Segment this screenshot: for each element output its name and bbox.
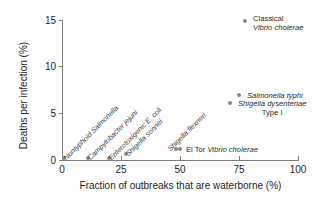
x-axis-title: Fraction of outbreaks that are waterborn… [62,180,299,191]
label-classical-prefix: Classical [253,14,283,23]
x-tick-100 [298,156,299,160]
y-axis-line [62,20,63,161]
y-tick-label-15: 15 [36,15,56,26]
label-el-tor-species: Vibrio cholerae [207,145,258,154]
x-tick-25 [121,156,122,160]
x-tick-label-100: 100 [290,164,307,175]
data-point-el-tor-vibrio-cholerae [178,147,182,151]
y-axis-title: Deaths per infection (%) [18,21,29,171]
x-tick-label-75: 75 [233,164,244,175]
data-point-classical-vibrio-cholerae [243,19,247,23]
label-classical-species: Vibrio cholerae [253,23,304,32]
y-tick-15 [59,20,63,21]
label-el-tor-vibrio-cholerae: El Tor Vibrio cholerae [186,145,258,154]
label-el-tor-prefix: El Tor [186,145,207,154]
y-tick-label-10: 10 [36,61,56,72]
data-point-salmonella-typhi [237,93,241,97]
y-tick-5 [59,113,63,114]
y-tick-10 [59,66,63,67]
x-tick-75 [239,156,240,160]
label-shigella-dysenteriae: Shigella dysenteriae Type I [238,99,306,118]
x-tick-label-50: 50 [174,164,185,175]
x-axis-line [62,160,299,161]
scatter-chart-figure: 0 25 50 75 100 15 10 5 0 Fraction of out… [0,0,325,204]
y-tick-label-0: 0 [36,155,56,166]
label-classical-vibrio-cholerae: Classical Vibrio cholerae [253,14,304,33]
y-tick-label-5: 5 [36,108,56,119]
label-shigella-dysenteriae-type: Type I [238,108,306,117]
data-point-shigella-dysenteriae [228,101,232,105]
x-tick-label-0: 0 [59,164,65,175]
y-tick-0 [59,160,63,161]
x-tick-label-25: 25 [115,164,126,175]
label-shigella-dysenteriae-text: Shigella dysenteriae [238,99,306,108]
x-tick-50 [180,156,181,160]
